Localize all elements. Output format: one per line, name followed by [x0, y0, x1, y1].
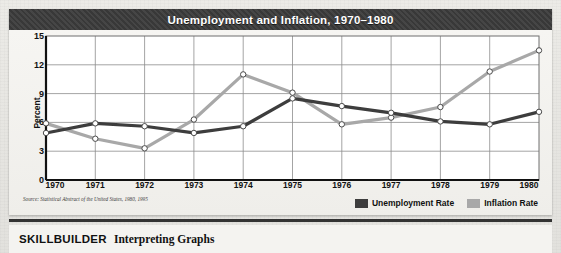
x-tick-1976: 1976	[332, 180, 351, 190]
legend-swatch-icon	[467, 199, 480, 208]
footer-divider	[9, 219, 552, 222]
x-tick-1979: 1979	[480, 180, 499, 190]
x-tick-1978: 1978	[431, 180, 450, 190]
chart-legend: Unemployment RateInflation Rate	[9, 196, 552, 210]
figure-panel: Unemployment and Inflation, 1970–1980 Pe…	[9, 9, 552, 215]
figure-title-bar: Unemployment and Inflation, 1970–1980	[9, 9, 552, 30]
x-tick-1971: 1971	[86, 180, 105, 190]
x-tick-1970: 1970	[46, 180, 65, 190]
chart-area: Percent 03691215 19701971197219731974197…	[9, 30, 552, 215]
skillbuilder-heading: SKILLBUILDER	[19, 233, 107, 245]
legend-label: Inflation Rate	[484, 198, 538, 208]
x-tick-1973: 1973	[184, 180, 203, 190]
skillbuilder-subtitle: Interpreting Graphs	[114, 233, 214, 245]
x-tick-1972: 1972	[135, 180, 154, 190]
line-chart-svg	[9, 30, 552, 182]
page-title: Unemployment and Inflation, 1970–1980	[168, 14, 394, 26]
x-tick-1974: 1974	[234, 180, 253, 190]
legend-item-2: Inflation Rate	[467, 198, 538, 208]
footer-panel: SKILLBUILDER Interpreting Graphs	[9, 225, 552, 253]
x-axis-ticks: 1970197119721973197419751976197719781979…	[9, 180, 552, 194]
legend-item-1: Unemployment Rate	[355, 198, 454, 208]
x-tick-1980: 1980	[520, 180, 539, 190]
x-tick-1977: 1977	[382, 180, 401, 190]
legend-swatch-icon	[355, 199, 368, 208]
legend-label: Unemployment Rate	[372, 198, 454, 208]
x-tick-1975: 1975	[283, 180, 302, 190]
plot-wrapper: Percent 03691215 19701971197219731974197…	[9, 30, 552, 180]
